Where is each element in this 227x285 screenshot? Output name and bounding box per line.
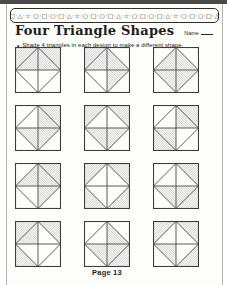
design-12 [153,221,199,267]
design-3 [153,47,199,93]
page-title: Four Triangle Shapes [15,23,174,38]
design-divider-line [15,186,38,209]
design-divider-line [84,70,107,93]
design-divider-line [153,105,176,128]
design-5 [84,105,130,151]
design-divider-line [176,128,199,151]
design-divider-line [84,221,107,244]
design-divider-line [153,163,176,186]
designs-grid [15,47,199,267]
design-divider-line [15,70,38,93]
design-divider-line [38,244,61,267]
design-4 [15,105,61,151]
design-1 [15,47,61,93]
worksheet-page: ·○·□·○·□·△·☆·○·□·○·□·△·☆·○·□·○·□·△·☆·○·□… [6,4,223,285]
design-divider-line [38,70,61,93]
design-10 [15,221,61,267]
design-11 [84,221,130,267]
name-label: Name [184,30,199,36]
design-8 [84,163,130,209]
design-divider-line [15,105,38,128]
design-9 [153,163,199,209]
design-7 [15,163,61,209]
name-blank-line[interactable] [201,25,213,35]
header-row: Four Triangle Shapes Name [15,23,213,39]
design-2 [84,47,130,93]
decorative-shapes-pattern: ·○·□·○·□·△·☆·○·□·○·□·△·☆·○·□·○·□·△·☆·○·□… [10,12,219,19]
decorative-border-strip: ·○·□·○·□·△·☆·○·□·○·□·△·☆·○·□·○·□·△·☆·○·□… [10,8,219,23]
page-number: Page 13 [15,268,199,277]
design-6 [153,105,199,151]
